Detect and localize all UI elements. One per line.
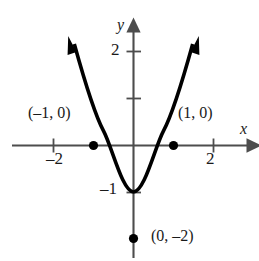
parabola-graph-figure: y x 2 –1 –2 2 (–1, 0) (1, 0) (0, –2) [0,0,259,261]
point-vertex [129,234,138,243]
x-axis-label: x [240,121,247,137]
point-right-intercept [169,141,178,150]
point-left-intercept [89,141,98,150]
x-tick-label-minus-2: –2 [46,150,63,167]
graph-canvas [0,0,259,261]
label-right-intercept: (1, 0) [178,105,213,121]
x-tick-label-2: 2 [206,150,215,167]
y-tick-label-2: 2 [111,41,120,58]
label-vertex: (0, –2) [151,228,194,244]
y-tick-label-minus-1: –1 [100,180,117,197]
y-axis-label: y [117,17,124,33]
label-left-intercept: (–1, 0) [28,105,71,121]
